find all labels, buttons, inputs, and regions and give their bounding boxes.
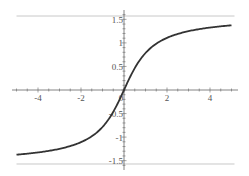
x-tick-label: 2 [165,93,170,103]
y-tick-label: 1.5 [112,15,124,25]
x-tick-label: 4 [208,93,213,103]
y-tick-label: -1 [116,133,124,143]
y-tick-label: 1 [119,38,124,48]
x-tick-label: -2 [77,93,85,103]
x-tick-label: -4 [34,93,42,103]
y-tick-label: -1.5 [109,156,124,166]
y-tick-label: 0.5 [112,62,124,72]
arctan-plot: -4-2024-1.5-1-0.50.511.5 [0,0,249,176]
